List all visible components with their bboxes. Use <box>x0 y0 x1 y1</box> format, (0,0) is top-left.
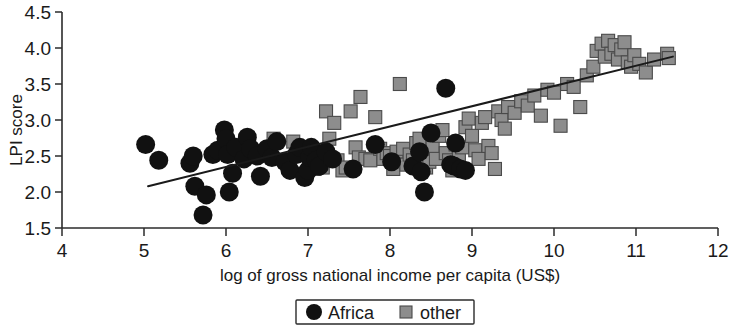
y-tick-label: 3.5 <box>25 74 51 95</box>
data-point <box>194 206 213 225</box>
y-axis-title: LPI score <box>7 94 26 166</box>
data-series-africa <box>136 79 475 225</box>
data-point <box>149 151 168 170</box>
data-point <box>366 135 385 154</box>
data-point <box>184 147 203 166</box>
data-point <box>422 123 441 142</box>
data-point <box>251 167 270 186</box>
data-point <box>498 122 511 135</box>
data-point <box>382 152 401 171</box>
data-point <box>197 185 216 204</box>
x-tick-label: 6 <box>221 240 232 261</box>
legend-label-other: other <box>420 303 461 323</box>
x-axis-tick-labels: 456789101112 <box>57 240 729 261</box>
data-point <box>323 149 342 168</box>
data-point <box>410 142 429 161</box>
data-point <box>456 161 475 180</box>
data-point <box>220 183 239 202</box>
y-tick-label: 1.5 <box>25 218 51 239</box>
x-tick-label: 12 <box>707 240 728 261</box>
data-point <box>393 78 406 91</box>
data-point <box>415 183 434 202</box>
y-tick-label: 3.0 <box>25 110 51 131</box>
y-tick-label: 4.5 <box>25 2 51 23</box>
data-point <box>488 162 501 175</box>
x-tick-label: 9 <box>467 240 478 261</box>
y-tick-label: 4.0 <box>25 38 51 59</box>
x-axis-title: log of gross national income per capita … <box>220 266 560 285</box>
data-point <box>534 109 547 122</box>
data-point <box>446 134 465 153</box>
y-axis-tick-labels: 1.52.02.53.03.54.04.5 <box>25 2 51 239</box>
data-point <box>369 111 382 124</box>
data-point <box>618 36 631 49</box>
x-axis-ticks <box>62 228 718 236</box>
data-point <box>554 119 567 132</box>
data-point <box>574 101 587 114</box>
data-point <box>485 147 498 160</box>
y-tick-label: 2.5 <box>25 146 51 167</box>
y-tick-label: 2.0 <box>25 182 51 203</box>
data-point <box>328 116 341 129</box>
data-point <box>639 66 652 79</box>
scatter-plot-figure: 1.52.02.53.03.54.04.5 456789101112 LPI s… <box>0 0 736 326</box>
data-point <box>354 90 367 103</box>
y-axis-ticks <box>55 12 62 228</box>
x-tick-label: 7 <box>303 240 314 261</box>
x-tick-label: 11 <box>626 240 646 261</box>
chart-legend: Africa other <box>296 300 474 324</box>
data-point <box>472 152 485 165</box>
x-tick-label: 8 <box>385 240 396 261</box>
legend-marker-other <box>400 306 412 318</box>
x-tick-label: 5 <box>139 240 150 261</box>
data-point <box>267 132 286 151</box>
data-point <box>479 111 492 124</box>
data-point <box>412 162 431 181</box>
data-point <box>466 129 479 142</box>
x-tick-label: 10 <box>543 240 564 261</box>
data-point <box>344 159 363 178</box>
legend-marker-africa <box>306 304 322 320</box>
x-tick-label: 4 <box>57 240 68 261</box>
data-point <box>344 105 357 118</box>
data-point <box>436 79 455 98</box>
chart-canvas: 1.52.02.53.03.54.04.5 456789101112 LPI s… <box>0 0 736 326</box>
legend-label-africa: Africa <box>328 303 375 323</box>
data-point <box>136 135 155 154</box>
data-point <box>462 112 475 125</box>
